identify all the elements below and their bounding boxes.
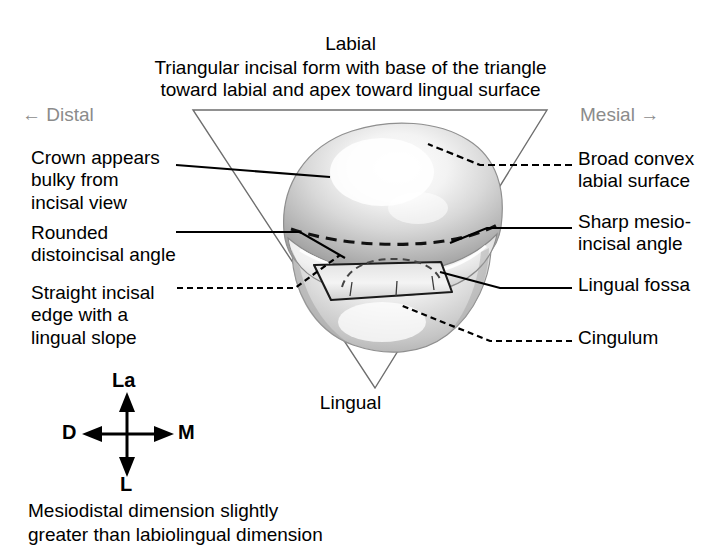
incisal-ridge-highlight: [300, 246, 486, 276]
cingulum-dashed-arc: [342, 259, 441, 287]
subtitle-line-1: Triangular incisal form with base of the…: [0, 57, 701, 79]
mesial-shadow: [447, 248, 489, 335]
leader-straight-incisal: [177, 255, 340, 288]
footer-line-2: greater than labiolingual dimension: [28, 524, 323, 546]
orientation-distal: ← Distal: [22, 104, 94, 126]
dome-highlight-2: [388, 192, 448, 224]
label-straight-incisal-edge: Straight incisal edge with a lingual slo…: [31, 282, 155, 349]
leader-crown-bulky: [176, 165, 330, 177]
cingulum-highlight: [338, 302, 426, 342]
compass-arrow-left: [82, 426, 102, 442]
label-rounded-distoincisal: Rounded distoincisal angle: [31, 222, 176, 267]
compass-label-labial: La: [112, 369, 135, 392]
label-lingual-apex: Lingual: [0, 392, 701, 414]
compass-label-mesial: M: [178, 421, 195, 444]
orientation-mesial: Mesial →: [580, 104, 659, 126]
compass-arrow-right: [154, 426, 174, 442]
incisal-ridge: [288, 234, 497, 296]
footer-line-1: Mesiodistal dimension slightly: [28, 500, 278, 522]
dome-highlight: [330, 138, 434, 206]
compass-label-lingual: L: [120, 473, 132, 496]
diagram-canvas: Labial Triangular incisal form with base…: [0, 0, 701, 554]
lingual-fossa-outline: [314, 262, 452, 300]
tooth-lingual-body: [292, 203, 491, 352]
leader-sharp-mesioincisal: [450, 228, 572, 243]
leader-cingulum: [400, 305, 572, 341]
compass-label-distal: D: [62, 421, 76, 444]
label-crown-bulky: Crown appears bulky from incisal view: [31, 147, 160, 214]
labial-contour-dashed: [291, 225, 497, 244]
subtitle-line-2: toward labial and apex toward lingual su…: [0, 79, 701, 101]
leader-lingual-fossa: [440, 272, 572, 288]
leader-broad-convex: [428, 144, 572, 165]
marginal-ridge-ticks: [350, 276, 434, 296]
distal-shadow: [292, 250, 352, 345]
page-title: Labial: [0, 33, 701, 55]
label-sharp-mesioincisal: Sharp mesio- incisal angle: [578, 211, 691, 256]
leader-rounded-distoincisal: [176, 232, 345, 258]
label-cingulum: Cingulum: [578, 327, 658, 349]
incisal-triangle: [193, 110, 547, 388]
label-lingual-fossa: Lingual fossa: [578, 274, 690, 296]
label-broad-convex-labial: Broad convex labial surface: [578, 148, 694, 193]
tooth-labial-dome: [284, 123, 503, 272]
